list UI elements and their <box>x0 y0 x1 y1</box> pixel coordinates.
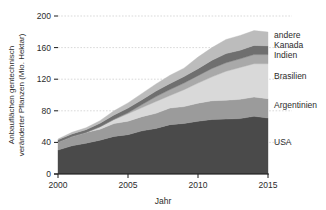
chart-container: 04080120160200 2000200520102015 Jahr Anb… <box>0 0 326 210</box>
x-axis-title: Jahr <box>155 196 172 206</box>
legend-label-andere: andere <box>274 30 301 40</box>
y-tick-label: 160 <box>37 43 51 53</box>
y-axis-title: Anbauflächen gentechnisch veränderter Pf… <box>7 33 26 156</box>
y-tick-label: 120 <box>37 74 51 84</box>
y-axis-title-line2: veränderter Pflanzen (Mio. Hektar) <box>17 33 26 156</box>
legend-label-brasilien: Brasilien <box>274 71 307 81</box>
x-tick-label: 2000 <box>49 180 68 190</box>
y-tick-label: 200 <box>37 11 51 21</box>
x-tick-label: 2010 <box>189 180 208 190</box>
stacked-area-chart: 04080120160200 2000200520102015 Jahr Anb… <box>0 0 326 210</box>
y-tick-label: 80 <box>42 106 52 116</box>
x-tick-label: 2015 <box>259 180 278 190</box>
x-tick-label: 2005 <box>119 180 138 190</box>
legend-label-indien: Indien <box>274 50 297 60</box>
legend-label-argentinien: Argentinien <box>274 100 317 110</box>
y-tick-label: 0 <box>46 169 51 179</box>
legend-label-kanada: Kanada <box>274 40 304 50</box>
y-tick-label: 40 <box>42 137 52 147</box>
legend-label-usa: USA <box>274 137 292 147</box>
y-axis-title-line1: Anbauflächen gentechnisch <box>7 46 16 144</box>
